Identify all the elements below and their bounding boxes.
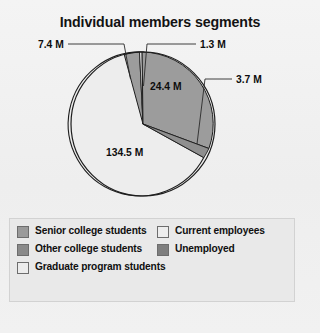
legend-swatch-icon — [157, 226, 169, 238]
legend-swatch-icon — [17, 244, 29, 256]
slice-callout-current-employees: 1.3 M — [200, 39, 226, 50]
legend-swatch-icon — [17, 226, 29, 238]
legend-item-label: Graduate program students — [35, 261, 165, 272]
legend-item-current-employees[interactable]: Current employees — [157, 225, 287, 238]
pie-chart-svg: 7.4 M 1.3 M 24.4 M 3.7 M 134.5 M — [0, 34, 320, 214]
slice-callout-unemployed: 3.7 M — [236, 74, 262, 85]
page-title: Individual members segments — [0, 14, 320, 30]
legend-item-senior-college-students[interactable]: Senior college students — [17, 225, 157, 238]
slice-callout-senior: 7.4 M — [38, 39, 64, 50]
chart-page: Individual members segments 7.4 M 1.3 M — [0, 0, 320, 333]
slice-label-other-college: 24.4 M — [150, 81, 181, 92]
legend-item-other-college-students[interactable]: Other college students — [17, 243, 157, 256]
legend-item-unemployed[interactable]: Unemployed — [157, 243, 287, 256]
legend-item-graduate-program-students[interactable]: Graduate program students — [17, 261, 167, 274]
legend-grid: Senior college students Current employee… — [17, 225, 289, 279]
legend-item-label: Senior college students — [35, 225, 146, 236]
legend-item-label: Current employees — [175, 225, 265, 236]
legend-item-label: Other college students — [35, 243, 142, 254]
pie-chart-area: 7.4 M 1.3 M 24.4 M 3.7 M 134.5 M — [0, 34, 320, 214]
legend-swatch-icon — [157, 244, 169, 256]
chart-legend: Senior college students Current employee… — [9, 218, 295, 302]
legend-swatch-icon — [17, 262, 29, 274]
legend-item-label: Unemployed — [175, 243, 235, 254]
slice-label-graduate: 134.5 M — [106, 147, 143, 158]
